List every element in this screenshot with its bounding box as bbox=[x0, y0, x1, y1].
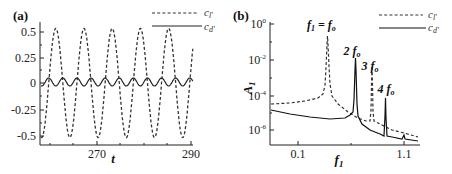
annot-3fo: 3 fo bbox=[361, 59, 379, 74]
b-x-ticks bbox=[298, 141, 404, 145]
panel-b: (b) 100 10-2 10-4 10-6 A1 0.1 1.1 f1 bbox=[233, 8, 439, 169]
a-legend-cd-label: cd' bbox=[204, 20, 215, 34]
b-legend-cd-label: cd' bbox=[428, 21, 439, 35]
b-legend: cl' cd' bbox=[379, 8, 439, 35]
b-ytick-1e0: 100 bbox=[251, 17, 267, 31]
annot-2fo: 2 fo bbox=[343, 44, 361, 59]
a-ytick-0.25: 0.25 bbox=[15, 51, 36, 65]
b-ylabel: A1 bbox=[240, 81, 257, 95]
panel-a: (a) 0.5 0.25 0 -0.25 -0.5 bbox=[11, 6, 215, 166]
b-xtick-1.1: 1.1 bbox=[397, 147, 412, 161]
a-ytick-0.5: 0.5 bbox=[21, 25, 36, 39]
a-ytick-0: 0 bbox=[30, 76, 36, 90]
b-xtick-0.1: 0.1 bbox=[291, 147, 306, 161]
b-ytick-1e-2: 10-2 bbox=[248, 53, 266, 67]
annot-4fo: 4 fo bbox=[377, 82, 395, 97]
b-legend-cl-label: cl' bbox=[428, 8, 437, 22]
a-xtick-270: 270 bbox=[88, 147, 106, 161]
annot-f1-eq-fo: f1 = fo bbox=[307, 18, 336, 33]
panel-a-label: (a) bbox=[13, 8, 28, 23]
a-xtick-290: 290 bbox=[182, 147, 200, 161]
b-y-ticks bbox=[270, 24, 274, 130]
panel-b-label: (b) bbox=[233, 8, 249, 23]
b-series-cd bbox=[271, 58, 418, 141]
b-xlabel: f1 bbox=[335, 152, 344, 169]
b-ytick-1e-6: 10-6 bbox=[248, 123, 266, 137]
a-series-cd bbox=[41, 78, 193, 86]
a-legend-cl-label: cl' bbox=[204, 6, 213, 20]
a-legend: cl' cd' bbox=[152, 6, 215, 34]
a-ytick--0.25: -0.25 bbox=[11, 103, 36, 117]
a-series-cl bbox=[41, 28, 193, 137]
a-x-ticks bbox=[50, 141, 191, 145]
figure: (a) 0.5 0.25 0 -0.25 -0.5 bbox=[0, 0, 452, 174]
a-ytick--0.5: -0.5 bbox=[17, 129, 36, 143]
a-xlabel: t bbox=[111, 151, 115, 166]
